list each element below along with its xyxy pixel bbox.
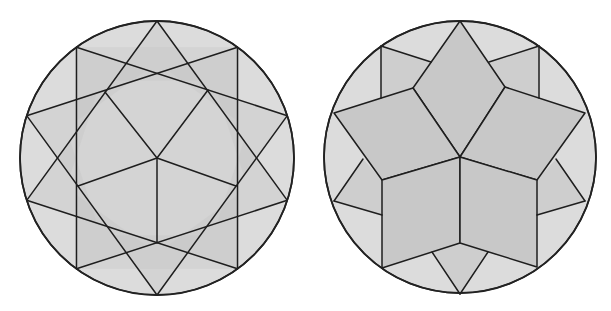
left-circle-star-figure bbox=[20, 21, 294, 295]
right-circle-rhombus-figure bbox=[324, 21, 596, 294]
geometric-diagram bbox=[0, 0, 611, 311]
